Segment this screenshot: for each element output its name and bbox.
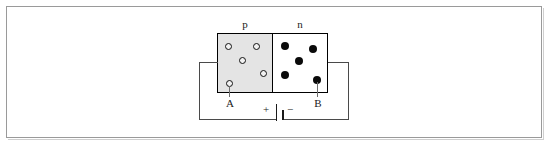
hole-marker: [260, 70, 267, 77]
terminal-b-label: B: [311, 98, 325, 109]
battery-negative-sign: −: [284, 104, 296, 115]
n-region-label: n: [293, 19, 307, 30]
hole-marker: [225, 43, 232, 50]
wire-bottom-right: [283, 119, 349, 120]
wire-left-top: [199, 62, 218, 63]
battery-positive-sign: +: [260, 104, 272, 115]
wire-left-side: [199, 62, 200, 120]
hole-marker: [239, 57, 246, 64]
electron-marker: [281, 42, 289, 50]
terminal-b-lead: [317, 82, 318, 97]
terminal-a-label: A: [223, 98, 237, 109]
wire-right-top: [328, 62, 349, 63]
electron-marker: [295, 57, 303, 65]
wire-right-side: [348, 62, 349, 120]
terminal-a-lead: [229, 86, 230, 97]
pn-junction-diagram: p n A B + −: [0, 0, 550, 149]
wire-bottom-left: [199, 119, 277, 120]
electron-marker: [309, 45, 317, 53]
hole-marker: [253, 43, 260, 50]
electron-marker: [281, 71, 289, 79]
p-region-label: p: [238, 19, 252, 30]
battery-positive-plate: [276, 104, 277, 121]
screenshot-canvas: p n A B + −: [0, 0, 550, 149]
